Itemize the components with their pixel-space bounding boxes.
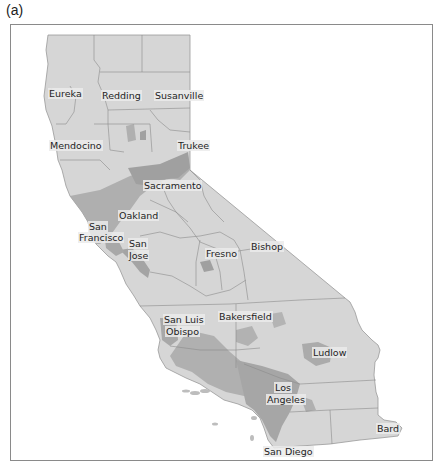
city-label: Trukee bbox=[177, 140, 210, 151]
city-label: Obispo bbox=[165, 326, 200, 337]
city-label: San Luis bbox=[163, 314, 205, 325]
city-label: Eureka bbox=[48, 88, 83, 99]
city-label: Susanville bbox=[154, 90, 204, 101]
city-label: Los bbox=[274, 382, 292, 393]
city-label: Redding bbox=[101, 90, 142, 101]
california-map bbox=[0, 0, 438, 466]
city-label: San bbox=[88, 221, 108, 232]
city-label: Angeles bbox=[266, 394, 306, 405]
city-label: Bishop bbox=[250, 241, 284, 252]
city-label: San bbox=[128, 238, 148, 249]
city-label: San Diego bbox=[263, 446, 314, 457]
city-label: Ludlow bbox=[312, 347, 347, 358]
city-label: Francisco bbox=[78, 232, 124, 243]
city-label: Oakland bbox=[118, 210, 159, 221]
city-label: Bard bbox=[376, 423, 400, 434]
city-label: Jose bbox=[128, 250, 149, 261]
city-label: Mendocino bbox=[49, 140, 103, 151]
city-label: Fresno bbox=[205, 248, 238, 259]
city-label: Sacramento bbox=[143, 180, 202, 191]
city-label: Bakersfield bbox=[218, 311, 273, 322]
